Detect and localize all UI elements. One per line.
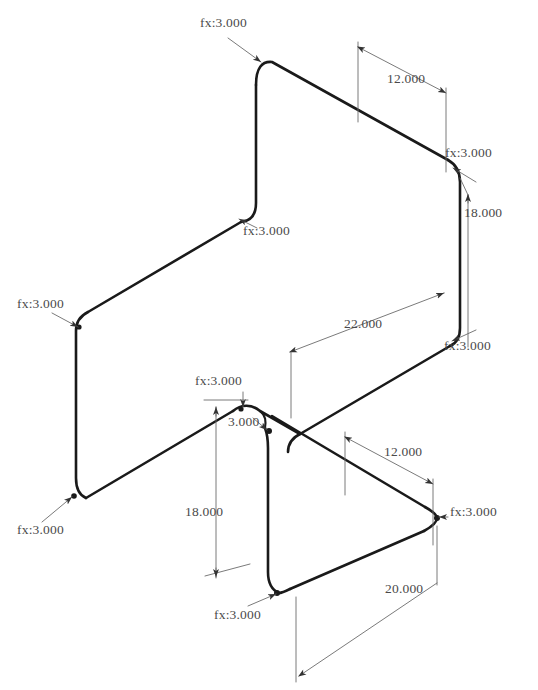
fillet-label-far-left-lower[interactable]: fx:3.000: [17, 523, 64, 537]
fillet-label-right-apex[interactable]: fx:3.000: [450, 505, 497, 519]
upper-panel-edges: [88, 62, 460, 346]
fillet-label-mid-left-upper[interactable]: fx:3.000: [243, 224, 290, 238]
fillet-label-right-lower[interactable]: fx:3.000: [444, 339, 491, 353]
dimension-label-12-top[interactable]: 12.000: [387, 72, 425, 86]
dimension-label-22-center[interactable]: 22.000: [344, 317, 382, 331]
dimension-20-bottom: [296, 526, 437, 682]
fillet-label-far-left-upper[interactable]: fx:3.000: [17, 297, 64, 311]
left-panel-edges: [76, 312, 233, 498]
connecting-edges: [288, 346, 450, 452]
fillet-leader-lines: [42, 38, 476, 606]
cad-drawing-canvas: fx:3.000 fx:3.000 fx:3.000 fx:3.000 fx:3…: [0, 0, 538, 690]
dimension-label-18-right[interactable]: 18.000: [464, 206, 502, 220]
vertex-markers: [71, 324, 440, 596]
dimension-label-12-lower[interactable]: 12.000: [384, 445, 422, 459]
fillet-label-upper-right[interactable]: fx:3.000: [445, 146, 492, 160]
dimension-label-20-bottom[interactable]: 20.000: [385, 582, 423, 596]
fillet-label-bottom-center[interactable]: fx:3.000: [214, 608, 261, 622]
fillet-label-mid-top-peak[interactable]: fx:3.000: [195, 374, 242, 388]
fillet-label-top-left[interactable]: fx:3.000: [200, 16, 247, 30]
dimension-22-center: [290, 293, 444, 418]
triangular-section-edges: [233, 406, 437, 593]
fillet-label-inner-value[interactable]: 3.000: [228, 415, 259, 429]
dimension-label-18-left[interactable]: 18.000: [185, 505, 223, 519]
